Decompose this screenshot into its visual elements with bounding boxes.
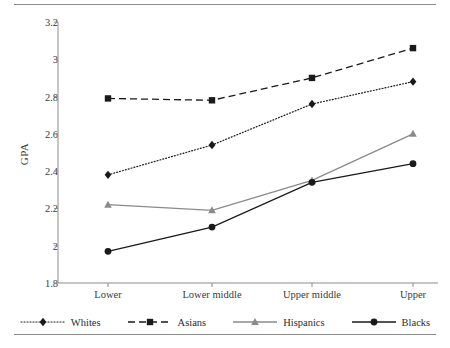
- legend-label-blacks: Blacks: [402, 317, 431, 328]
- legend-key-hispanics-icon: [232, 317, 278, 327]
- legend-key-blacks-icon: [351, 317, 397, 327]
- series-line-asians: [108, 48, 413, 100]
- legend-key-whites-icon: [20, 317, 66, 327]
- series-asians: [105, 45, 416, 104]
- legend-marker: [370, 319, 377, 326]
- legend-item-hispanics[interactable]: Hispanics: [232, 317, 324, 328]
- legend-key-asians-icon: [127, 317, 173, 327]
- legend-item-whites[interactable]: Whites: [20, 317, 101, 328]
- line-chart-plot: [0, 0, 450, 348]
- legend-marker: [146, 319, 152, 325]
- data-point-hispanics-3: [409, 130, 417, 137]
- data-point-asians-0: [105, 95, 111, 101]
- data-point-blacks-1: [209, 224, 216, 231]
- data-point-whites-1: [209, 141, 216, 149]
- figure-container: GPA 1.822.22.42.62.833.2 LowerLower midd…: [0, 0, 450, 348]
- series-line-whites: [108, 82, 413, 175]
- legend-label-hispanics: Hispanics: [283, 317, 324, 328]
- data-point-blacks-0: [105, 248, 112, 255]
- data-point-blacks-2: [309, 179, 316, 186]
- data-point-asians-3: [410, 45, 416, 51]
- data-point-asians-1: [209, 97, 215, 103]
- legend-item-blacks[interactable]: Blacks: [351, 317, 431, 328]
- legend-item-asians[interactable]: Asians: [127, 317, 207, 328]
- series-whites: [105, 77, 417, 179]
- data-point-whites-2: [309, 100, 316, 108]
- chart-legend: WhitesAsiansHispanicsBlacks: [0, 310, 450, 334]
- data-point-whites-0: [105, 171, 112, 179]
- data-point-blacks-3: [410, 160, 417, 167]
- legend-label-asians: Asians: [178, 317, 207, 328]
- data-point-whites-3: [410, 77, 417, 85]
- legend-label-whites: Whites: [71, 317, 101, 328]
- data-point-asians-2: [309, 75, 315, 81]
- legend-marker: [39, 318, 46, 326]
